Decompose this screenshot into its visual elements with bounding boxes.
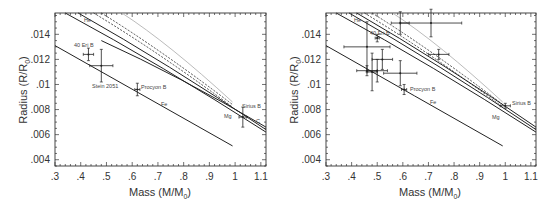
x-tick-label: .4 (77, 171, 86, 182)
x-tick-label: 1.1 (524, 171, 538, 182)
data-point (83, 48, 93, 61)
model-curve-mg (336, 13, 536, 132)
data-point (367, 53, 377, 91)
data-point (372, 49, 392, 69)
x-tick-label: .8 (179, 171, 188, 182)
right-x-axis-title: Mass (M/M0) (399, 186, 461, 200)
label-he: He (84, 17, 91, 23)
x-tick-label: 1 (502, 171, 508, 182)
label-fe: Fe (430, 99, 436, 105)
label-sirius-b: Sirius B (242, 103, 261, 109)
y-tick-label: .014 (31, 29, 51, 40)
y-tick-label: .012 (31, 54, 51, 65)
data-point (135, 83, 140, 96)
label-mg: Mg (492, 114, 500, 120)
y-tick-label: .004 (302, 154, 322, 165)
x-tick-label: .7 (424, 171, 433, 182)
label-40-eri-b: 40 Eri B (370, 30, 390, 36)
mass-radius-figure: He 40 Eri B Stein 2051 Procyon B Fe Siri… (0, 0, 553, 205)
x-tick-label: .9 (475, 171, 484, 182)
right-panel: He 40 Eri B Procyon B Fe Sirius B Mg .3.… (288, 9, 538, 200)
y-tick-label: .014 (302, 29, 322, 40)
y-tick-label: .006 (302, 129, 322, 140)
y-tick-label: .012 (302, 54, 322, 65)
y-tick-label: .01 (36, 79, 50, 90)
y-tick-label: .01 (307, 79, 321, 90)
x-tick-label: .6 (128, 171, 137, 182)
label-procyon-b: Procyon B (410, 86, 436, 92)
label-sirius-b: Sirius B (512, 100, 531, 106)
model-curve-he (101, 41, 266, 128)
y-tick-label: .006 (31, 129, 51, 140)
x-tick-label: .3 (51, 171, 60, 182)
x-tick-label: .8 (450, 171, 459, 182)
x-tick-label: 1.1 (254, 171, 268, 182)
x-tick-label: 1 (232, 171, 238, 182)
model-curve-thin-grey (122, 13, 233, 102)
label-c: C (256, 118, 260, 124)
right-y-axis-title: Radius (R/R0) (288, 56, 302, 123)
x-tick-label: .4 (347, 171, 356, 182)
y-tick-label: .004 (31, 154, 51, 165)
x-tick-label: .6 (399, 171, 408, 182)
label-he: He (354, 17, 361, 23)
x-tick-label: .5 (373, 171, 382, 182)
x-tick-label: .7 (154, 171, 163, 182)
x-tick-label: .5 (102, 171, 111, 182)
y-tick-label: .008 (31, 104, 51, 115)
y-tick-label: .008 (302, 104, 322, 115)
data-point (239, 107, 247, 127)
label-stein-2051: Stein 2051 (92, 83, 118, 89)
model-curve-dashed-2 (101, 13, 232, 105)
model-curve-dashed-2 (372, 13, 503, 105)
data-point (384, 61, 417, 86)
label-40-eri-b: 40 Eri B (74, 42, 94, 48)
label-fe: Fe (161, 101, 167, 107)
label-procyon-b: Procyon B (141, 84, 167, 90)
x-tick-label: .9 (205, 171, 214, 182)
label-mg: Mg (224, 113, 232, 119)
left-model-curves (55, 13, 266, 146)
model-curve-fe (326, 46, 503, 146)
model-curve-dashed-1 (94, 13, 233, 107)
data-point (402, 84, 407, 94)
x-tick-label: .3 (322, 171, 331, 182)
left-panel: He 40 Eri B Stein 2051 Procyon B Fe Siri… (17, 13, 268, 200)
left-y-axis-title: Radius (R/R0) (17, 56, 31, 123)
model-curve-mg (65, 13, 266, 132)
left-x-axis-title: Mass (M/M0) (129, 186, 191, 200)
